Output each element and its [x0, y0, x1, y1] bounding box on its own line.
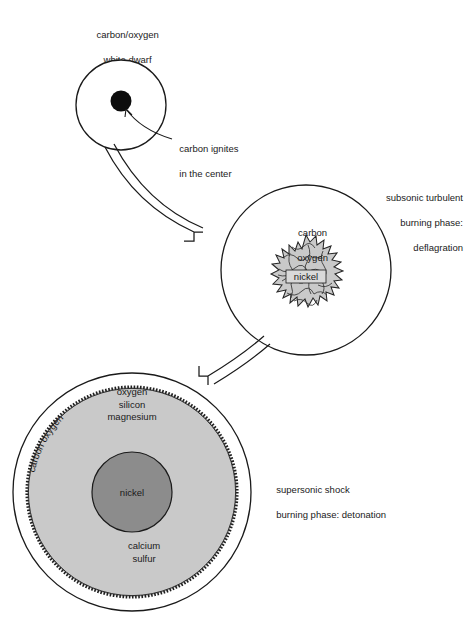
- stage3-phase-line2: burning phase: detonation: [276, 509, 386, 520]
- stage1-title-line1: carbon/oxygen: [96, 29, 158, 40]
- stage3-detonation: nickel carbon oxygen oxygen silicon magn…: [8, 362, 258, 612]
- stage2-nickel-label: nickel: [294, 271, 318, 282]
- stage2-phase-label: subsonic turbulent burning phase: deflag…: [330, 180, 463, 254]
- stage3-nickel-label: nickel: [120, 487, 144, 498]
- stage3-shell-composition-line2: silicon: [119, 399, 145, 410]
- arrow-stage1-to-stage2: [100, 142, 230, 247]
- stage3-phase-line1: supersonic shock: [276, 484, 349, 495]
- stage3-shell-composition-line3: magnesium: [107, 411, 156, 422]
- arrow1-shaft-outline: [105, 144, 203, 241]
- stage2-phase-line1: subsonic turbulent: [386, 192, 463, 203]
- stage3-lower-composition-line1: calcium: [128, 540, 160, 551]
- stage2-phase-line3: deflagration: [413, 242, 463, 253]
- stage3-lower-composition-line2: sulfur: [132, 553, 155, 564]
- stage2-composition-line1: carbon: [298, 227, 327, 238]
- stage3-phase-label: supersonic shock burning phase: detonati…: [271, 472, 441, 522]
- ignition-spot-icon: [111, 91, 132, 112]
- stage2-composition-line2: oxygen: [297, 252, 328, 263]
- stage3-shell-composition-line1: oxygen: [117, 386, 148, 397]
- stage2-phase-line2: burning phase:: [400, 217, 463, 228]
